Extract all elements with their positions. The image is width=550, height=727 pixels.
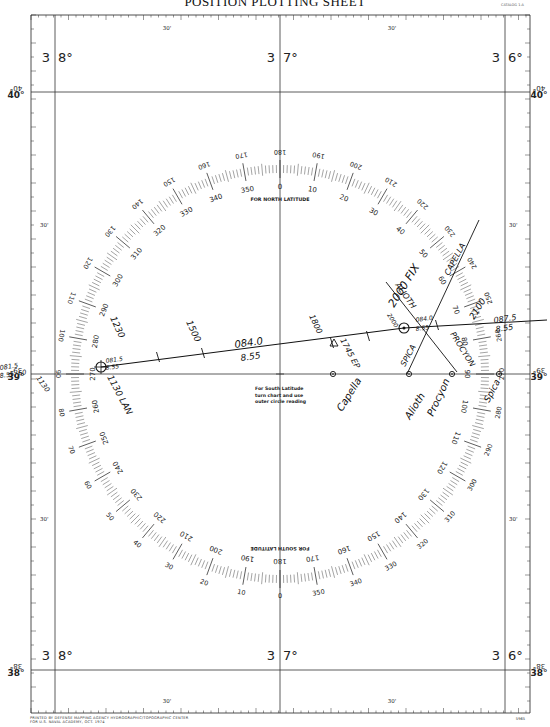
south-latitude-note: outer circle reading (255, 399, 306, 404)
star-label-capella: Capella (334, 376, 363, 413)
compass-outer-label: 220 (415, 197, 430, 211)
lan-label: 1130 LAN (105, 373, 134, 416)
lop-label-procyon: PROCYON (448, 330, 476, 368)
latitude-label-inverted: 40° (533, 84, 545, 92)
compass-outer-label: 110 (66, 291, 78, 305)
margin-time-label: 1130 (34, 375, 51, 395)
south-latitude-caption: FOR SOUTH LATITUDE (251, 546, 310, 551)
compass-inner-label: 330 (179, 205, 195, 219)
time-tick (157, 352, 160, 362)
latitude-label-inverted: 38° (10, 662, 22, 670)
compass-inner-label: 190 (240, 553, 255, 563)
track-speed-label: 8.55 (240, 350, 262, 363)
compass-inner-label: 290 (98, 302, 110, 317)
fix-course-label: 084.0 (415, 314, 433, 323)
time-tick (202, 348, 205, 358)
time-tick (436, 320, 439, 330)
compass-inner-label: 230 (129, 487, 144, 502)
longitude-label: 7° (283, 50, 298, 65)
compass-inner-label: 300 (111, 273, 125, 289)
compass-outer-label: 90 (54, 370, 62, 378)
longitude-label: 3 (42, 648, 50, 663)
compass-outer-label: 140 (130, 197, 145, 211)
compass-outer-label: 210 (384, 175, 399, 188)
compass-inner-label: 210 (179, 529, 195, 543)
longitude-label: 7° (283, 648, 298, 663)
compass-inner-label: 110 (450, 430, 462, 445)
start-speed-label: 8.55 (105, 362, 119, 371)
compass-inner-label: 10 (307, 185, 317, 194)
printer-credit: PRINTED BY DEFENSE MAPPING AGENCY HYDROG… (30, 716, 189, 724)
star-label-alioth: Alioth (402, 391, 427, 422)
compass-inner-label: 270 (89, 367, 97, 380)
compass-inner-label: 20 (338, 193, 349, 204)
minute-label: 30' (40, 222, 49, 228)
printer-credit-line2: FOR U.S. NAVAL ACADEMY, OCT. 1974 (30, 720, 189, 724)
compass-outer-label: 240 (466, 256, 479, 271)
fix-time-label: 2000 (386, 312, 400, 329)
compass-inner-label: 30 (368, 206, 380, 217)
compass-outer-label: 60 (82, 479, 93, 490)
compass-inner-label: 170 (305, 553, 320, 563)
compass-inner-label: 250 (98, 430, 110, 445)
compass-outer-label: 190 (312, 150, 326, 160)
compass-outer-label: 120 (81, 256, 94, 271)
longitude-label: 3 (42, 50, 50, 65)
compass-inner-label: 140 (393, 510, 408, 525)
compass-outer-label: 330 (384, 560, 399, 573)
graticule-labels: 38°38°37°37°36°36°40°40°40°40°39°39°39°3… (7, 25, 547, 704)
latitude-label-inverted: 38° (533, 662, 545, 670)
compass-outer-label: 300 (466, 478, 479, 493)
minute-label: 30' (163, 25, 172, 31)
compass-inner-label: 60 (436, 275, 447, 287)
time-1230-label: 1230 (108, 315, 127, 340)
compass-outer-label: 50 (104, 511, 115, 522)
compass-inner-label: 150 (366, 529, 382, 543)
compass-inner-label: 0 (278, 183, 282, 191)
compass-inner-label: 240 (111, 460, 125, 476)
compass-outer-label: 230 (443, 224, 457, 239)
minute-label: 30' (509, 222, 518, 228)
compass-outer-label: 40 (132, 538, 143, 549)
compass-inner-label: 200 (208, 544, 223, 556)
star-label-procyon: Procyon (425, 377, 452, 418)
compass-inner-label: 340 (208, 192, 223, 204)
track-course-label: 084.0 (234, 335, 264, 350)
south-latitude-note: For South Latitude (255, 386, 303, 391)
minute-label: 30' (163, 698, 172, 704)
compass-outer-label: 30 (163, 561, 174, 572)
compass-outer-label: 340 (349, 577, 363, 589)
compass-outer-label: 350 (312, 588, 326, 598)
compass-inner-label: 130 (416, 487, 431, 502)
ep-label: 1745 EP (338, 337, 361, 370)
compass-inner-label: 280 (91, 334, 101, 349)
latitude-label-inverted: 40° (10, 84, 22, 92)
minute-label: 30' (509, 516, 518, 522)
compass-inner-label: 40 (394, 225, 406, 237)
compass-inner-label: 120 (435, 460, 449, 476)
chart-number: 5965 (516, 717, 525, 721)
compass-inner-label: 90 (463, 370, 471, 379)
longitude-label: 3 (492, 648, 500, 663)
time-1500-label: 1500 (184, 319, 203, 344)
longitude-label: 6° (508, 50, 523, 65)
compass-outer-label: 320 (415, 537, 430, 551)
compass-outer-label: 130 (103, 224, 117, 239)
longitude-label: 3 (267, 50, 275, 65)
north-latitude-caption: FOR NORTH LATITUDE (250, 197, 309, 202)
compass-inner-label: 100 (459, 399, 469, 414)
south-latitude-note: turn chart and use (255, 393, 303, 398)
longitude-label: 3 (267, 648, 275, 663)
longitude-label: 8° (58, 648, 73, 663)
longitude-label: 8° (58, 50, 73, 65)
compass-outer-label: 150 (162, 175, 177, 188)
compass-outer-label: 10 (237, 588, 247, 597)
compass-inner-label: 260 (91, 399, 101, 414)
compass-inner-label: 350 (240, 185, 255, 195)
time-tick (331, 338, 334, 348)
compass-outer-label: 20 (199, 577, 210, 587)
plotting-sheet[interactable]: 38°38°37°37°36°36°40°40°40°40°39°39°39°3… (0, 0, 550, 727)
compass-inner-label: 160 (336, 544, 351, 556)
compass-outer-label: 160 (197, 160, 211, 172)
minute-label: 30' (40, 516, 49, 522)
